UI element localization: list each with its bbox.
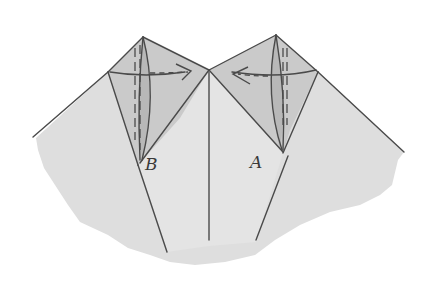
origami-diagram: B A: [0, 0, 438, 284]
flap-label-b: B: [144, 154, 158, 174]
flap-label-a: A: [248, 152, 262, 172]
